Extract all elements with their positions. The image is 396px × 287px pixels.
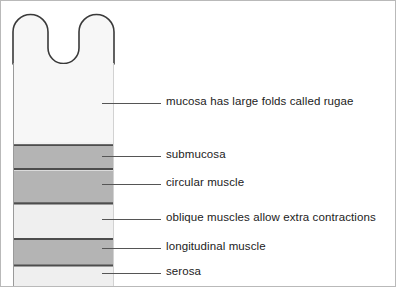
label-submucosa: submucosa — [166, 149, 226, 161]
label-circular-muscle: circular muscle — [166, 177, 244, 189]
layer-band-oblique-muscles — [13, 204, 114, 240]
layer-separator-serosa-top — [13, 265, 114, 267]
layer-band-circular-muscle — [13, 171, 114, 204]
label-longitudinal-muscle: longitudinal muscle — [166, 241, 266, 253]
layer-band-longitudinal-muscle — [13, 240, 114, 266]
rugae-folds-group — [13, 15, 114, 65]
label-mucosa: mucosa has large folds called rugae — [166, 96, 354, 108]
layer-band-serosa — [13, 266, 114, 287]
label-oblique-muscles: oblique muscles allow extra contractions — [166, 212, 376, 224]
rugae-fold-shape — [13, 15, 114, 65]
layer-separator-circular-top — [13, 168, 114, 170]
layer-band-mucosa — [13, 64, 114, 142]
layer-separator-oblique-top — [13, 202, 114, 204]
layer-band-submucosa — [13, 146, 114, 168]
layer-separator-submucosa-top — [13, 144, 114, 146]
layer-separator-longitudinal-top — [13, 238, 114, 240]
stomach-wall-diagram: mucosa has large folds called rugae subm… — [0, 0, 396, 287]
layer-bands-group — [13, 64, 114, 287]
label-serosa: serosa — [166, 266, 201, 278]
